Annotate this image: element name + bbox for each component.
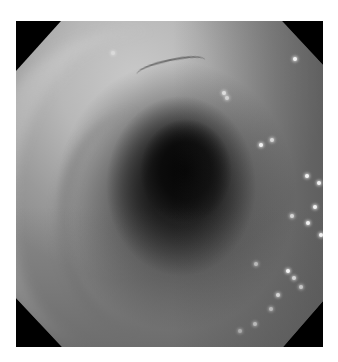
light-reflection	[225, 96, 229, 100]
bottom-shadow	[16, 207, 323, 347]
light-reflection	[254, 262, 258, 266]
light-reflection	[306, 221, 310, 225]
light-reflection	[269, 307, 273, 311]
light-reflection	[319, 233, 323, 237]
light-reflection	[286, 269, 290, 273]
light-reflection	[222, 91, 226, 95]
light-reflection	[293, 57, 297, 61]
endoscopy-image	[16, 21, 323, 347]
light-reflection	[259, 143, 263, 147]
light-reflection	[253, 322, 257, 326]
light-reflection	[290, 214, 294, 218]
endoscopy-image-frame	[16, 21, 323, 347]
light-reflection	[238, 329, 242, 333]
light-reflection	[313, 205, 317, 209]
light-reflection	[305, 174, 309, 178]
light-reflection	[270, 138, 274, 142]
light-reflection	[292, 276, 296, 280]
light-reflection	[111, 51, 115, 55]
light-reflection	[317, 181, 321, 185]
light-reflection	[276, 293, 280, 297]
light-reflection	[299, 285, 303, 289]
